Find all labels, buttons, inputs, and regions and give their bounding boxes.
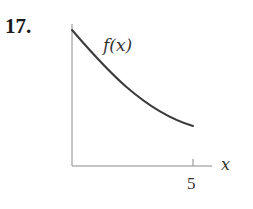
curve-f: [72, 30, 193, 126]
x-axis-label: x: [221, 155, 230, 174]
curve-label: f(x): [101, 35, 132, 55]
function-graph: f(x) x 5: [0, 0, 253, 209]
x-tick-label-5: 5: [187, 174, 196, 193]
